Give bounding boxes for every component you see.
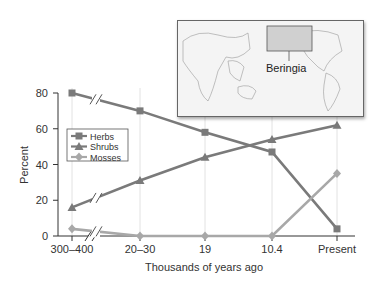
x-axis-label: Thousands of years ago xyxy=(145,261,263,273)
x-tick-label: 19 xyxy=(199,243,211,255)
y-tick-label: 0 xyxy=(42,230,48,242)
inset-world-map: Beringia xyxy=(177,20,364,117)
legend-label: Mosses xyxy=(90,153,122,163)
x-tick-label: 10.4 xyxy=(261,243,282,255)
y-tick-label: 40 xyxy=(36,159,48,171)
beringia-highlight xyxy=(267,26,312,51)
legend-label: Shrubs xyxy=(90,142,119,152)
x-tick-label: 300–400 xyxy=(51,243,94,255)
x-tick-label: 20–30 xyxy=(125,243,156,255)
beringia-label: Beringia xyxy=(266,62,306,74)
y-tick-label: 60 xyxy=(36,123,48,135)
x-tick-label: Present xyxy=(318,243,356,255)
y-axis-label: Percent xyxy=(18,146,30,184)
y-tick-label: 80 xyxy=(36,87,48,99)
legend-label: Herbs xyxy=(90,132,115,142)
y-tick-label: 20 xyxy=(36,194,48,206)
legend-item-mosses: Mosses xyxy=(71,153,122,163)
legend: HerbsShrubsMosses xyxy=(67,129,128,163)
